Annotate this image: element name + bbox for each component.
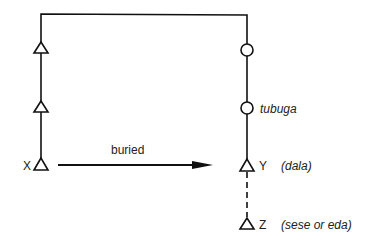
label-z: Z bbox=[259, 219, 266, 231]
triangle-left-mid bbox=[34, 101, 48, 112]
label-x: X bbox=[23, 160, 31, 172]
triangle-y bbox=[240, 159, 254, 171]
label-sese-or-eda: (sese or eda) bbox=[281, 219, 352, 231]
circle-tubuga bbox=[241, 102, 253, 114]
buried-arrow-head bbox=[192, 161, 213, 169]
kinship-diagram: X buried tubuga Y (dala) Z (sese or eda) bbox=[0, 0, 385, 247]
triangle-x bbox=[34, 158, 48, 170]
label-buried: buried bbox=[111, 144, 144, 156]
triangle-left-top bbox=[34, 42, 48, 53]
sibling-connector bbox=[41, 14, 247, 50]
diagram-canvas bbox=[0, 0, 385, 247]
label-tubuga: tubuga bbox=[260, 103, 297, 115]
label-y: Y bbox=[259, 160, 267, 172]
circle-right-top bbox=[241, 44, 253, 56]
label-dala: (dala) bbox=[281, 160, 312, 172]
triangle-z bbox=[240, 218, 254, 229]
